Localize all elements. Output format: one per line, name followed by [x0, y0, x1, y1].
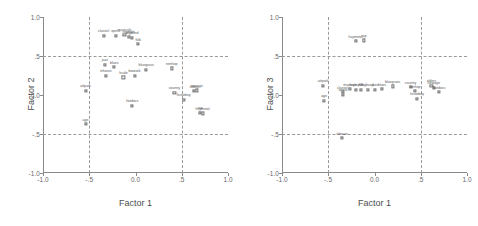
scatter-point — [201, 112, 204, 115]
x-axis-tick-label: 0.0 — [131, 176, 140, 183]
scatter-point — [173, 91, 176, 94]
y-axis-tick — [279, 134, 282, 135]
scatter-point — [133, 74, 136, 77]
scatter-point-label: attpark — [80, 84, 91, 88]
y-axis-tick-label: -.5 — [32, 131, 40, 138]
scatter-point — [104, 74, 107, 77]
scatter-point — [84, 89, 87, 92]
scatter-point-label: newage — [190, 84, 202, 88]
y-axis-tick — [279, 95, 282, 96]
scatter-point-label: jazz — [102, 58, 108, 62]
y-axis-line-right — [282, 17, 283, 173]
scatter-point — [354, 40, 357, 43]
scatter-point-label: bluegrass — [139, 63, 154, 67]
scatter-point-label: hotdocs — [433, 86, 445, 90]
x-axis-tick-label: 0.0 — [370, 176, 379, 183]
scatter-point-label: reinhop — [409, 85, 421, 89]
panel-factor1-factor3: Factor 3 -1.0-.50.0.51.0-1.0-.50.0.51.0h… — [239, 0, 478, 226]
scatter-point-label: hotdocs — [126, 99, 138, 103]
plot-area-left: -1.0-.50.0.51.0-1.0-.50.0.51.0classiclop… — [43, 17, 228, 173]
y-axis-line-left — [43, 17, 44, 173]
scatter-point-label: tvhours — [336, 132, 347, 136]
y-axis-tick — [279, 17, 282, 18]
x-axis-tick-label: -1.0 — [276, 176, 287, 183]
gridline-horizontal — [282, 56, 467, 57]
scatter-point-label: hcafe — [119, 71, 128, 75]
x-axis-tick-label: .5 — [418, 176, 424, 183]
scatter-point — [182, 98, 185, 101]
scatter-point — [373, 88, 376, 91]
scatter-point-label: hvymetal — [196, 107, 210, 111]
scatter-point — [84, 123, 87, 126]
gridline-horizontal — [282, 134, 467, 135]
scatter-point-label: blues — [110, 61, 118, 65]
scatter-point-label: tvhours — [100, 69, 111, 73]
scatter-point-label: classicl — [98, 29, 109, 33]
scatter-point — [131, 36, 134, 39]
scatter-point — [195, 89, 198, 92]
scatter-point — [131, 104, 134, 107]
scatter-point-label: bigband — [126, 31, 138, 35]
scatter-point — [366, 88, 369, 91]
y-axis-title-wrap-left: Factor 2 — [14, 17, 28, 173]
gridline-horizontal — [43, 134, 228, 135]
scatter-point — [102, 34, 105, 37]
panel-factor1-factor2: Factor 2 -1.0-.50.0.51.0-1.0-.50.0.51.0c… — [0, 0, 239, 226]
scatter-point-label: age — [83, 118, 89, 122]
scatter-point-label: country — [169, 86, 180, 90]
scatter-point — [322, 99, 325, 102]
scatter-point — [362, 39, 365, 42]
y-axis-tick — [40, 17, 43, 18]
x-axis-tick-label: -.5 — [85, 176, 93, 183]
scatter-point-label: reinhop — [166, 62, 178, 66]
scatter-point-label: folk — [136, 38, 141, 42]
scatter-point — [322, 84, 325, 87]
gridline-horizontal — [43, 56, 228, 57]
scatter-point — [341, 137, 344, 140]
y-axis-tick-label: .5 — [34, 53, 40, 60]
scatter-point — [391, 85, 394, 88]
scatter-point-label: newage — [428, 81, 440, 85]
y-axis-tick-label: 1.0 — [270, 14, 279, 21]
scatter-point — [145, 68, 148, 71]
scatter-point — [170, 67, 173, 70]
y-axis-tick — [40, 134, 43, 135]
scatter-point — [359, 88, 362, 91]
y-axis-tick-label: .5 — [273, 53, 279, 60]
scatter-point — [438, 91, 441, 94]
gridline-vertical — [89, 17, 90, 173]
scatter-point-label: attpark — [318, 79, 329, 83]
x-axis-title-left: Factor 1 — [43, 198, 228, 208]
plot-area-right: -1.0-.50.0.51.0-1.0-.50.0.51.0hvymetalra… — [282, 17, 467, 173]
scatter-point — [122, 76, 125, 79]
scatter-point-label: age — [321, 94, 327, 98]
scatter-point — [103, 63, 106, 66]
x-axis-tick-label: -.5 — [324, 176, 332, 183]
scatter-point — [354, 88, 357, 91]
scatter-point-label: bwwork — [129, 69, 141, 73]
scatter-point — [137, 43, 140, 46]
scatter-point-label: opera — [339, 88, 348, 92]
scatter-point — [380, 88, 383, 91]
x-axis-tick-label: 1.0 — [223, 176, 232, 183]
scatter-point — [114, 34, 117, 37]
gridline-vertical — [328, 17, 329, 173]
factor-plot-figure: Factor 2 -1.0-.50.0.51.0-1.0-.50.0.51.0c… — [0, 0, 478, 226]
y-axis-tick-label: -.5 — [271, 131, 279, 138]
scatter-point — [415, 97, 418, 100]
scatter-point-label: bluegrass — [385, 80, 400, 84]
x-axis-tick-label: -1.0 — [37, 176, 48, 183]
x-axis-tick-label: 1.0 — [462, 176, 471, 183]
y-axis-tick-label: 0.0 — [270, 92, 279, 99]
scatter-point-label: rap — [361, 34, 366, 38]
scatter-point — [348, 88, 351, 91]
x-axis-tick-label: .5 — [179, 176, 185, 183]
y-axis-tick-label: 1.0 — [31, 14, 40, 21]
scatter-point-label: hcowboy — [410, 92, 424, 96]
y-axis-title-wrap-right: Factor 3 — [253, 17, 267, 173]
scatter-point — [341, 93, 344, 96]
scatter-point-label: hcowboy — [177, 93, 191, 97]
y-axis-tick-label: 0.0 — [31, 92, 40, 99]
scatter-point — [113, 66, 116, 69]
y-axis-tick — [40, 95, 43, 96]
